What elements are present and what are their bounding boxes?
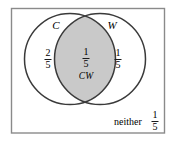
fraction-denominator: 5 (45, 60, 52, 71)
fraction-w-only: 1 5 (115, 48, 122, 70)
fraction-numerator: 1 (83, 47, 90, 58)
region-label-cw: CW (79, 72, 94, 82)
fraction-denominator: 5 (83, 59, 90, 70)
fraction-intersection: 1 5 (83, 47, 90, 69)
fraction-c-only: 2 5 (45, 48, 52, 70)
fraction-denominator: 5 (115, 60, 122, 71)
region-label-neither: neither (114, 117, 142, 127)
fraction-numerator: 2 (45, 48, 52, 59)
fraction-denominator: 5 (152, 122, 159, 133)
set-label-w: W (107, 20, 116, 31)
venn-diagram-figure: C W 2 5 1 5 CW 1 5 neither 1 5 (0, 0, 174, 141)
fraction-numerator: 1 (152, 110, 159, 121)
fraction-numerator: 1 (115, 48, 122, 59)
fraction-neither: 1 5 (152, 110, 159, 132)
set-label-c: C (52, 20, 59, 31)
